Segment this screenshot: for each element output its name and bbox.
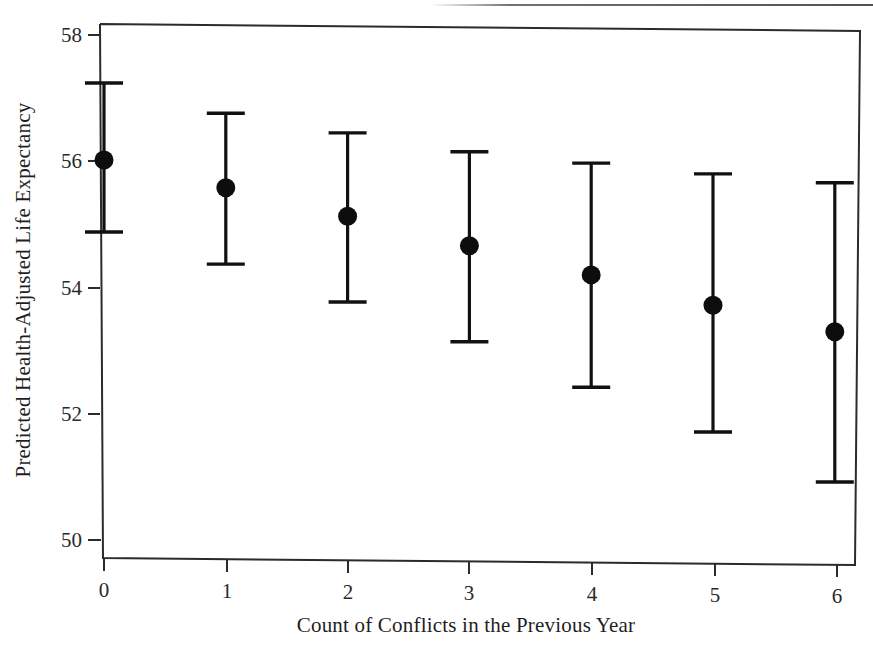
data-point-marker bbox=[582, 265, 601, 284]
error-bar-group bbox=[450, 152, 488, 342]
x-tick-label: 2 bbox=[343, 580, 354, 604]
error-bar-group bbox=[694, 174, 732, 432]
error-bar-group bbox=[329, 133, 367, 302]
y-tick-label: 50 bbox=[61, 528, 82, 552]
figure-container: 58 56 54 52 50 0 1 2 3 4 5 6 Count of bbox=[0, 0, 873, 647]
y-tick-label: 56 bbox=[61, 149, 82, 173]
x-tick-label: 1 bbox=[222, 579, 233, 603]
error-bar-group bbox=[572, 163, 610, 387]
x-axis-title: Count of Conflicts in the Previous Year bbox=[297, 613, 636, 637]
x-tick-label: 0 bbox=[99, 578, 110, 602]
x-tick-label: 3 bbox=[464, 581, 475, 605]
x-tick-label: 5 bbox=[710, 583, 721, 607]
chart-canvas: 58 56 54 52 50 0 1 2 3 4 5 6 Count of bbox=[0, 0, 873, 647]
data-point-marker bbox=[704, 296, 723, 315]
y-axis-ticks bbox=[88, 35, 101, 540]
y-tick-label: 52 bbox=[61, 402, 82, 426]
x-tick-label: 6 bbox=[832, 584, 843, 608]
plot-frame bbox=[100, 24, 860, 565]
x-axis-tick-labels: 0 1 2 3 4 5 6 bbox=[99, 578, 843, 608]
error-bar-group bbox=[207, 113, 245, 264]
x-tick-label: 4 bbox=[587, 582, 598, 606]
data-point-marker bbox=[825, 322, 844, 341]
y-axis-tick-labels: 58 56 54 52 50 bbox=[61, 23, 83, 552]
error-bar-group bbox=[85, 83, 123, 232]
data-point-marker bbox=[95, 150, 114, 169]
y-tick-label: 58 bbox=[61, 23, 82, 47]
data-point-marker bbox=[338, 207, 357, 226]
data-series-layer bbox=[85, 83, 854, 482]
y-tick-label: 54 bbox=[61, 276, 83, 300]
y-axis-title: Predicted Health-Adjusted Life Expectanc… bbox=[11, 102, 35, 477]
error-bar-group bbox=[816, 183, 854, 482]
data-point-marker bbox=[460, 236, 479, 255]
data-point-marker bbox=[216, 178, 235, 197]
